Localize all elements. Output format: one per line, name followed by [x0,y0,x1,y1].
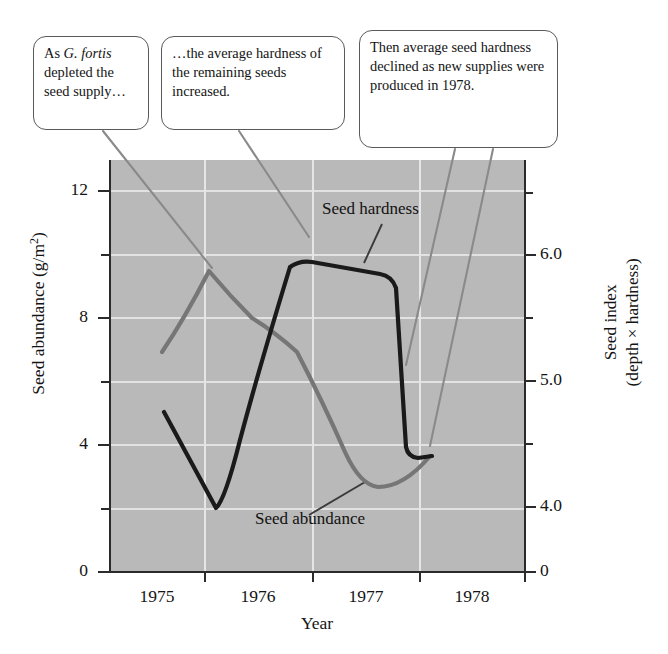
callout-box-hardness-increase: …the average hardness of the remaining s… [161,36,345,130]
tick-left-0 [98,571,110,573]
gridline-h-8 [110,317,524,319]
tick-x-1 [204,571,206,582]
ylabel-right-6-0: 6.0 [540,243,562,264]
tick-x-4 [524,571,526,582]
ylabel-left-4: 4 [44,433,88,454]
tick-left-4 [98,444,110,446]
xlabel-1976: 1976 [223,586,293,607]
ylabel-right-5-0: 5.0 [540,369,562,390]
left-axis-line [109,160,111,573]
left-axis-title-close: ) [28,232,48,238]
seed-abundance-hardness-figure: As G. fortis depleted the seed supply… …… [0,0,668,654]
tick-left-12 [98,190,110,192]
series-label-seed-hardness: Seed hardness [322,199,419,219]
ylabel-left-12: 12 [44,179,88,200]
callout-box-hardness-decline: Then average seed hardness declined as n… [359,30,558,148]
gridline-h-12 [110,190,524,192]
gridline-h-6 [110,381,524,383]
right-axis-title-line2: (depth × hardness) [622,202,644,442]
left-axis-title: Seed abundance (g/m2) [27,163,50,463]
tick-right-5-0 [524,380,536,382]
callout-box-seed-supply: As G. fortis depleted the seed supply… [33,36,149,130]
tick-right-5-5 [524,317,533,319]
left-axis-title-text: Seed abundance (g/m [28,244,48,395]
plot-area: Seed hardness Seed abundance [110,160,524,571]
ylabel-right-0: 0 [540,560,549,581]
gridline-v-1975-1976 [204,160,206,571]
tick-left-6 [101,381,110,383]
tick-right-6-0 [524,254,536,256]
ylabel-left-0: 0 [44,560,88,581]
tick-left-2 [101,508,110,510]
right-axis-title-line1: Seed index [600,202,622,442]
ylabel-left-8: 8 [44,306,88,327]
gridline-v-1977-1978 [419,160,421,571]
right-axis-title: Seed index (depth × hardness) [600,202,645,442]
species-name: G. fortis [64,45,112,61]
gridline-h-10 [110,254,524,256]
x-axis-line [109,571,526,573]
xlabel-1975: 1975 [122,586,192,607]
tick-x-3 [419,571,421,582]
x-axis-title: Year [242,613,392,634]
xlabel-1977: 1977 [331,586,401,607]
tick-right-0 [524,571,536,573]
left-axis-title-exponent: 2 [27,238,41,244]
gridline-h-4 [110,444,524,446]
right-axis-line [524,160,526,573]
tick-left-8 [98,317,110,319]
tick-right-4-5 [524,443,533,445]
tick-x-2 [312,571,314,582]
tick-right-6-5 [524,192,533,194]
xlabel-1978: 1978 [437,586,507,607]
tick-left-10 [101,254,110,256]
ylabel-right-4-0: 4.0 [540,495,562,516]
tick-right-4-0 [524,506,536,508]
series-label-seed-abundance: Seed abundance [255,509,365,529]
